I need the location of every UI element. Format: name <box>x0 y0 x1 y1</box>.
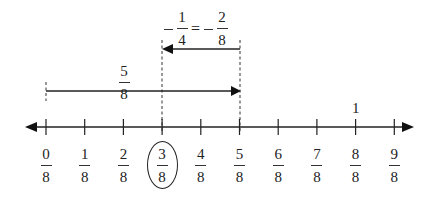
backward-jump-label: 14=28 <box>162 10 229 48</box>
tick-denominator: 8 <box>73 170 97 185</box>
tick-numerator: 6 <box>266 147 290 162</box>
rhs-numerator: 2 <box>215 10 229 25</box>
fraction-bar <box>234 165 245 166</box>
tick-denominator: 8 <box>111 170 135 185</box>
tick-numerator: 9 <box>382 147 406 162</box>
tick-numerator: 8 <box>344 147 368 162</box>
rhs-fraction: 28 <box>215 10 229 48</box>
fraction-bar <box>311 165 322 166</box>
forward-jump-denominator: 8 <box>112 87 136 102</box>
tick-denominator: 8 <box>305 170 329 185</box>
forward-jump-label: 5 8 <box>112 64 136 102</box>
equals-sign: = <box>191 21 200 37</box>
minus-sign <box>204 29 213 30</box>
rhs-denominator: 8 <box>215 33 229 48</box>
tick-denominator: 8 <box>228 170 252 185</box>
lhs-denominator: 4 <box>175 33 189 48</box>
tick-label: 98 <box>382 147 406 185</box>
tick-denominator: 8 <box>344 170 368 185</box>
tick-denominator: 8 <box>189 170 213 185</box>
fraction-bar <box>118 165 129 166</box>
tick-denominator: 8 <box>34 170 58 185</box>
tick-denominator: 8 <box>382 170 406 185</box>
fraction-bar <box>79 165 90 166</box>
tick-label: 88 <box>344 147 368 185</box>
fraction-bar <box>217 28 228 29</box>
axis-left-arrowhead <box>25 122 37 132</box>
minus-sign <box>164 29 173 30</box>
tick-label: 78 <box>305 147 329 185</box>
fraction-bar <box>350 165 361 166</box>
tick-numerator: 7 <box>305 147 329 162</box>
tick-label: 18 <box>73 147 97 185</box>
axis-right-arrowhead <box>402 122 414 132</box>
fraction-bar <box>389 165 400 166</box>
tick-numerator: 2 <box>111 147 135 162</box>
tick-numerator: 0 <box>34 147 58 162</box>
tick-label: 58 <box>228 147 252 185</box>
forward-jump-numerator: 5 <box>112 64 136 79</box>
fraction-bar <box>41 165 52 166</box>
fraction-bar <box>177 28 188 29</box>
fraction-bar <box>119 82 130 83</box>
tick-numerator: 4 <box>189 147 213 162</box>
lhs-numerator: 1 <box>175 10 189 25</box>
tick-label: 48 <box>189 147 213 185</box>
tick-label: 68 <box>266 147 290 185</box>
whole-number-label: 1 <box>352 101 360 116</box>
tick-label: 08 <box>34 147 58 185</box>
fraction-bar <box>273 165 284 166</box>
tick-numerator: 1 <box>73 147 97 162</box>
tick-numerator: 5 <box>228 147 252 162</box>
forward-jump-arrowhead <box>231 86 241 96</box>
fraction-bar <box>195 165 206 166</box>
tick-label: 28 <box>111 147 135 185</box>
tick-denominator: 8 <box>266 170 290 185</box>
lhs-fraction: 14 <box>175 10 189 48</box>
answer-circle <box>147 141 178 189</box>
